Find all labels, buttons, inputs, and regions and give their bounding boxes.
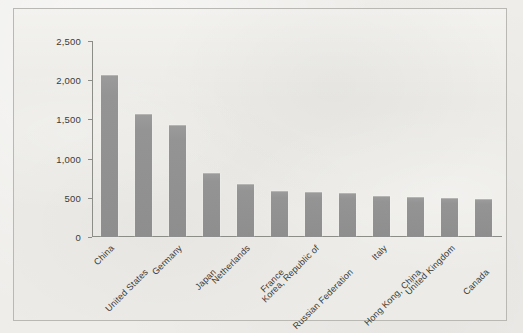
category-slot: Canada [467, 241, 501, 333]
category-slot: Japan [194, 241, 228, 333]
bar-russian-federation[interactable] [339, 193, 356, 237]
category-slot: United States [126, 241, 160, 333]
bar-france[interactable] [271, 191, 288, 237]
plot-area: 2,5002,0001,5001,0005000 [92, 41, 501, 237]
bar-slot [228, 41, 262, 237]
y-tick-label: 500 [65, 192, 81, 203]
bar-series [92, 41, 501, 237]
category-slot: Russian Federation [331, 241, 365, 333]
y-tick-label: 0 [76, 232, 81, 243]
category-label-italy: Italy [369, 243, 388, 262]
x-axis-category-labels: ChinaUnited StatesGermanyJapanNetherland… [92, 241, 501, 333]
y-tick-label: 1,500 [56, 114, 81, 125]
bar-japan[interactable] [203, 173, 220, 237]
bar-netherlands[interactable] [237, 184, 254, 237]
category-slot: United Kingdom [433, 241, 467, 333]
bar-united-kingdom[interactable] [441, 198, 458, 237]
y-tick-label: 2,500 [56, 36, 81, 47]
y-tick-label: 1,000 [56, 153, 81, 164]
bar-united-states[interactable] [135, 114, 152, 237]
bar-korea-republic-of[interactable] [305, 192, 322, 237]
bar-slot [160, 41, 194, 237]
category-label-china: China [92, 243, 116, 267]
bar-slot [365, 41, 399, 237]
bar-slot [467, 41, 501, 237]
figure-page: $ billions 2,5002,0001,5001,0005000 Chin… [0, 0, 523, 333]
bar-slot [92, 41, 126, 237]
bar-hong-kong-china[interactable] [407, 197, 424, 237]
bar-slot [296, 41, 330, 237]
bar-germany[interactable] [169, 125, 186, 237]
bar-slot [126, 41, 160, 237]
bar-slot [194, 41, 228, 237]
bar-slot [331, 41, 365, 237]
bar-italy[interactable] [373, 196, 390, 237]
category-slot: China [92, 241, 126, 333]
category-slot: Germany [160, 241, 194, 333]
bar-china[interactable] [101, 75, 118, 237]
bar-canada[interactable] [475, 199, 492, 237]
y-tick-label: 2,000 [56, 75, 81, 86]
chart-figure: $ billions 2,5002,0001,5001,0005000 Chin… [13, 8, 507, 321]
bar-slot [433, 41, 467, 237]
y-tick-0: 0 [88, 237, 92, 238]
bar-slot [399, 41, 433, 237]
bar-slot [262, 41, 296, 237]
